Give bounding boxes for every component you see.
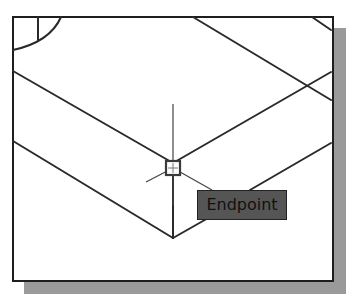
top-right-edge [193, 17, 331, 100]
snap-tooltip: Endpoint [197, 190, 287, 220]
upper-right-edge [173, 72, 331, 163]
drawing-canvas[interactable] [0, 0, 353, 307]
lower-right-edge [173, 217, 210, 238]
corner-edge [312, 17, 331, 30]
upper-left-edge [13, 71, 173, 163]
lower-left-edge [13, 141, 173, 238]
far-right-edge [250, 143, 331, 190]
endpoint-snap-marker-icon [166, 161, 180, 175]
